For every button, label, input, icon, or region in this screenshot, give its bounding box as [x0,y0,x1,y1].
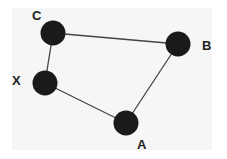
edge-a-x [45,83,126,123]
node-b [166,32,191,57]
node-x [33,71,58,96]
edge-b-a [126,44,178,123]
label-b: B [202,38,211,53]
label-a: A [137,137,147,152]
node-c [41,21,66,46]
diagram-canvas: C B X A [0,0,227,159]
label-c: C [32,8,42,23]
label-x: X [12,73,21,88]
node-a [114,111,139,136]
graph-diagram: C B X A [0,0,227,159]
edge-c-b [53,33,178,44]
